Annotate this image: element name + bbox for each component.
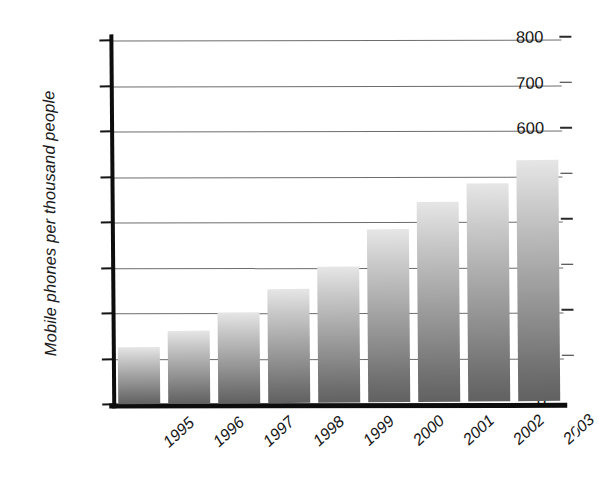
bar-1997	[217, 312, 260, 403]
x-tick-label-2001: 2001	[460, 411, 498, 448]
bar-1995	[118, 347, 161, 404]
bar-1996	[168, 331, 211, 404]
bar-chart: Mobile phones per thousand people 010020…	[0, 0, 578, 489]
bar-2002	[466, 183, 510, 402]
x-tick-label-2000: 2000	[410, 412, 448, 449]
x-tick-label-1999: 1999	[360, 412, 398, 449]
bar-2001	[417, 201, 461, 402]
x-tick-label-1997: 1997	[260, 413, 298, 450]
x-tick-label-2002: 2002	[510, 411, 548, 448]
y-axis-title: Mobile phones per thousand people	[39, 43, 61, 403]
x-tick-label-1996: 1996	[210, 413, 248, 450]
x-tick-label-1995: 1995	[160, 414, 198, 451]
x-tick-label-1998: 1998	[310, 413, 348, 450]
bar-1999	[317, 266, 360, 403]
bar-1998	[267, 289, 310, 403]
bar-2000	[367, 229, 411, 402]
x-tick-label-2003: 2003	[560, 411, 598, 448]
page-edge	[571, 0, 578, 487]
bar-series	[111, 37, 564, 405]
x-axis-labels: 199519961997199819992000200120022003	[114, 405, 565, 489]
bar-2003	[516, 160, 560, 401]
